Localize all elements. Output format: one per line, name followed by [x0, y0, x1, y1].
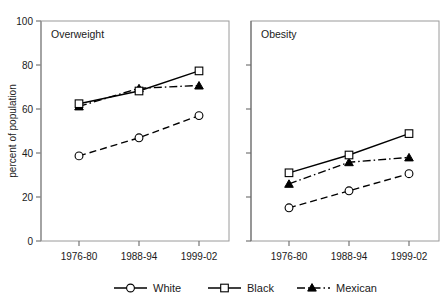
y-axis-title: percent of population: [7, 84, 18, 177]
legend-label-white: White: [153, 282, 181, 294]
y-axis: 100 80 60 40 20 0 percent of population: [7, 16, 41, 247]
x-tick-label-overweight-2: 1988-94: [121, 251, 158, 262]
x-tick-label-obesity-1: 1976-80: [271, 251, 308, 262]
marker-white-obesity-3: [405, 170, 413, 178]
marker-white-obesity-2: [345, 187, 353, 195]
y-tick-label-40: 40: [22, 148, 34, 159]
y-tick-label-0: 0: [27, 236, 33, 247]
legend-label-black: Black: [247, 282, 274, 294]
marker-black-obesity-3: [405, 130, 413, 138]
grouped-line-chart: 100 80 60 40 20 0 percent of population …: [0, 0, 442, 307]
x-tick-label-obesity-3: 1999-02: [391, 251, 428, 262]
marker-black-overweight-2: [135, 87, 143, 95]
legend-item-mexican[interactable]: Mexican: [297, 282, 377, 294]
marker-white-obesity-1: [285, 204, 293, 212]
legend-marker-black-square-icon: [221, 284, 229, 292]
legend-item-black[interactable]: Black: [208, 282, 274, 294]
panel-obesity-title: Obesity: [261, 28, 297, 40]
marker-black-obesity-1: [285, 169, 293, 177]
marker-white-overweight-2: [135, 134, 143, 142]
x-tick-label-overweight-1: 1976-80: [61, 251, 98, 262]
marker-black-overweight-1: [75, 100, 83, 108]
legend-marker-white-circle-icon: [127, 284, 135, 292]
chart-figure: 100 80 60 40 20 0 percent of population …: [0, 0, 442, 307]
legend-label-mexican: Mexican: [336, 282, 377, 294]
panel-overweight-frame: [41, 21, 229, 241]
x-tick-label-obesity-2: 1988-94: [331, 251, 368, 262]
y-tick-label-80: 80: [22, 60, 34, 71]
y-tick-label-20: 20: [22, 192, 34, 203]
legend-item-white[interactable]: White: [114, 282, 181, 294]
marker-black-obesity-2: [345, 151, 353, 159]
y-tick-label-60: 60: [22, 104, 34, 115]
marker-black-overweight-3: [195, 67, 203, 75]
panel-obesity: Obesity 1976-80 1988-94 1999-02: [246, 21, 439, 262]
marker-white-overweight-1: [75, 152, 83, 160]
panel-overweight-title: Overweight: [51, 28, 104, 40]
marker-mexican-obesity-1: [285, 180, 294, 188]
panel-overweight: Overweight 1976-80 1988-94 1999-02: [41, 21, 229, 262]
x-tick-label-overweight-3: 1999-02: [181, 251, 218, 262]
marker-white-overweight-3: [195, 112, 203, 120]
chart-legend: White Black Mexican: [114, 282, 377, 294]
y-tick-label-100: 100: [16, 16, 33, 27]
